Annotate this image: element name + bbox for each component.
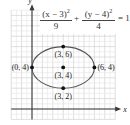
equation: (x − 3)2 9 + (y − 4)2 4 = 1	[40, 6, 130, 34]
term1-denominator: 9	[40, 21, 72, 31]
x-axis-arrow-icon	[115, 107, 121, 112]
term2-exponent: 2	[109, 8, 112, 14]
term1-numerator: (x − 3)	[42, 9, 67, 19]
equation-term-x: (x − 3)2 9	[40, 8, 72, 31]
x-axis-label: x	[122, 105, 127, 114]
ellipse-graph: xy (0, 4)(6, 4)(3, 6)(3, 4)(3, 2) (x − 3…	[0, 0, 130, 125]
point-label: (6, 4)	[97, 63, 115, 72]
data-point	[61, 86, 65, 90]
point-label: (3, 4)	[55, 71, 73, 80]
y-axis-label: y	[27, 0, 32, 5]
data-point	[61, 66, 65, 70]
data-point	[61, 45, 65, 49]
equation-rhs: = 1	[118, 14, 130, 23]
point-label: (0, 4)	[12, 63, 30, 72]
data-point	[30, 66, 34, 70]
term2-denominator: 4	[82, 21, 115, 31]
data-point	[93, 66, 97, 70]
equation-term-y: (y − 4)2 4	[82, 8, 115, 31]
point-label: (3, 6)	[55, 50, 73, 59]
term1-exponent: 2	[67, 8, 70, 14]
plus-sign: +	[74, 14, 79, 23]
term2-numerator: (y − 4)	[85, 9, 110, 19]
point-label: (3, 2)	[55, 92, 73, 101]
